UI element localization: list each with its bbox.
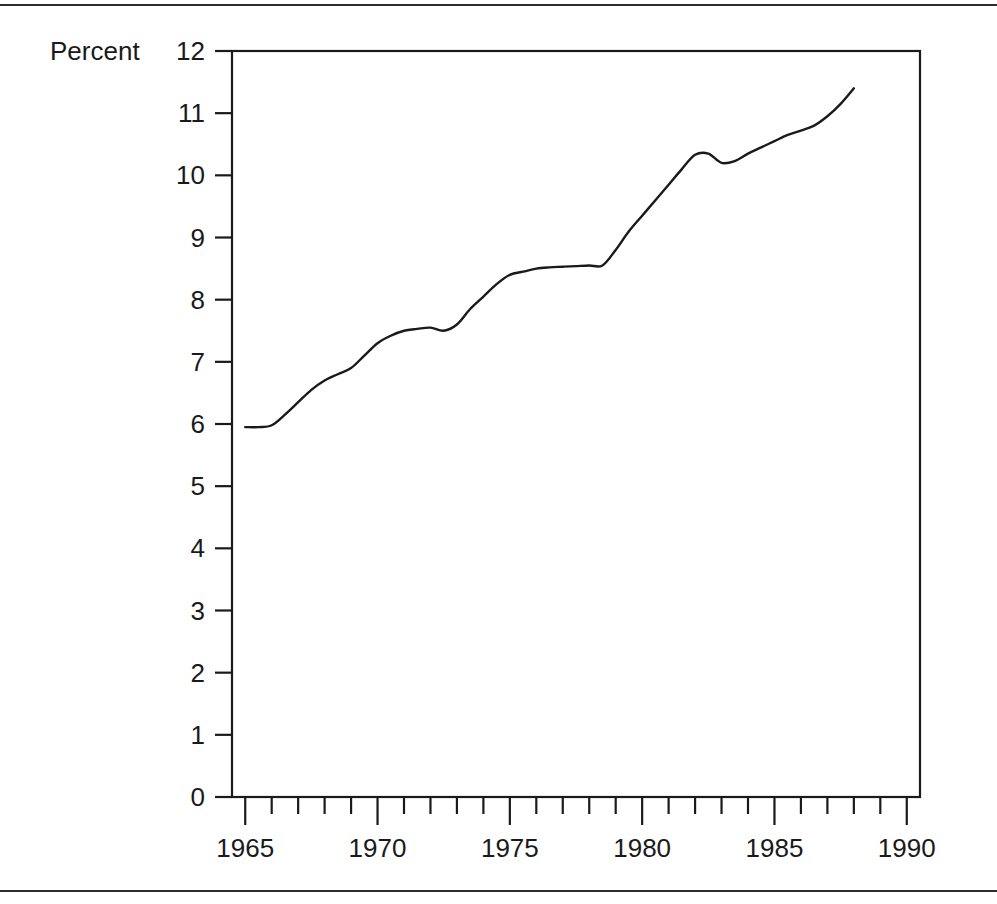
y-axis-tick-label: 3 — [191, 596, 205, 626]
y-axis-tick-label: 8 — [191, 285, 205, 315]
y-axis-tick-label: 0 — [191, 782, 205, 812]
x-axis: 196519701975198019851990 — [216, 797, 935, 863]
bottom-divider-rule — [0, 890, 997, 892]
y-axis-tick-label: 6 — [191, 409, 205, 439]
x-axis-tick-label: 1975 — [481, 833, 539, 863]
y-axis-tick-label: 4 — [191, 533, 205, 563]
y-axis-tick-label: 12 — [176, 36, 205, 66]
figure-page: 0123456789101112Percent19651970197519801… — [0, 0, 997, 904]
x-axis-tick-label: 1970 — [349, 833, 407, 863]
x-axis-tick-label: 1965 — [216, 833, 274, 863]
y-axis-title: Percent — [50, 36, 140, 66]
line-chart-figure: 0123456789101112Percent19651970197519801… — [0, 0, 997, 884]
y-axis-tick-label: 9 — [191, 223, 205, 253]
chart-svg: 0123456789101112Percent19651970197519801… — [0, 0, 997, 884]
y-axis-tick-label: 5 — [191, 471, 205, 501]
x-axis-tick-label: 1985 — [746, 833, 804, 863]
y-axis-tick-label: 1 — [191, 720, 205, 750]
y-axis-tick-label: 10 — [176, 160, 205, 190]
y-axis: 0123456789101112 — [176, 36, 232, 812]
x-axis-tick-label: 1980 — [613, 833, 671, 863]
y-axis-tick-label: 7 — [191, 347, 205, 377]
plot-frame — [232, 51, 920, 797]
y-axis-tick-label: 2 — [191, 658, 205, 688]
y-axis-tick-label: 11 — [178, 98, 205, 128]
data-series-line — [245, 88, 854, 427]
x-axis-tick-label: 1990 — [878, 833, 936, 863]
